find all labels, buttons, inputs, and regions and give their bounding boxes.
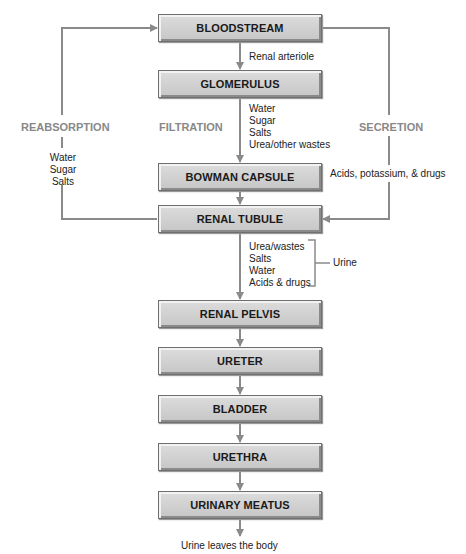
label-urine-leaves-body: Urine leaves the body: [181, 540, 278, 552]
filtrate-item: Salts: [249, 127, 271, 139]
reabsorbed-item: Water: [48, 152, 78, 164]
box-urethra: URETHRA: [158, 443, 322, 471]
box-glomerulus: GLOMERULUS: [158, 70, 322, 98]
box-renal-tubule: RENAL TUBULE: [158, 205, 322, 233]
box-ureter: URETER: [158, 347, 322, 375]
box-bloodstream: BLOODSTREAM: [158, 14, 322, 42]
box-bladder: BLADDER: [158, 395, 322, 423]
filtrate-item: Sugar: [249, 115, 276, 127]
reabsorbed-item: Sugar: [48, 164, 78, 176]
label-secreted: Acids, potassium, & drugs: [330, 168, 446, 180]
caption-filtration: FILTRATION: [159, 121, 223, 133]
box-renal-pelvis: RENAL PELVIS: [158, 300, 322, 328]
caption-secretion: SECRETION: [359, 121, 423, 133]
filtrate-item: Urea/other wastes: [249, 139, 330, 151]
urine-item: Acids & drugs: [249, 277, 311, 289]
box-urinary-meatus: URINARY MEATUS: [158, 491, 322, 519]
label-renal-arteriole: Renal arteriole: [249, 51, 314, 63]
urine-item: Urea/wastes: [249, 241, 305, 253]
box-bowman-capsule: BOWMAN CAPSULE: [158, 163, 322, 191]
urine-item: Salts: [249, 253, 271, 265]
filtrate-item: Water: [249, 103, 275, 115]
reabsorbed-item: Salts: [48, 176, 78, 188]
label-urine: Urine: [333, 257, 357, 269]
urine-item: Water: [249, 265, 275, 277]
caption-reabsorption: REABSORPTION: [21, 121, 110, 133]
